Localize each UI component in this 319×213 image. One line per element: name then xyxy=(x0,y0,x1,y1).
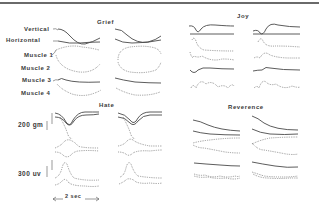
grief-panel-b xyxy=(115,29,161,95)
hate-panel-a xyxy=(52,112,99,201)
grief-panel-a xyxy=(56,29,101,96)
reverence-panel-a xyxy=(193,120,240,179)
hate-panel-b xyxy=(118,112,162,184)
joy-panel-b xyxy=(253,24,300,88)
joy-panel-a xyxy=(189,25,234,88)
traces-figure xyxy=(0,0,319,213)
reverence-panel-b xyxy=(252,116,298,179)
label-leader-lines xyxy=(52,29,58,81)
